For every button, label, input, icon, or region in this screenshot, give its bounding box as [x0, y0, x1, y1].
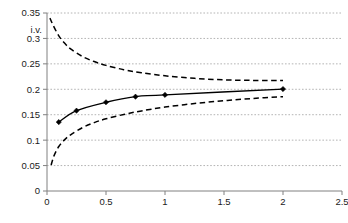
x-axis-tick-label: 1	[162, 196, 167, 207]
y-axis-tick-label: 0.35	[22, 7, 41, 18]
chart-container: 00.511.522.5 0.350.30.250.20.150.10.050 …	[0, 0, 348, 223]
implied-volatility-chart: 00.511.522.5 0.350.30.250.20.150.10.050 …	[0, 0, 348, 223]
x-axis-tick-label: 1.5	[217, 196, 230, 207]
y-axis-tick-label: 0	[35, 185, 40, 196]
chart-background	[0, 0, 348, 223]
x-axis-tick-label: 2	[280, 196, 285, 207]
x-axis-tick-label: 0	[44, 196, 49, 207]
y-axis-tick-label: 0.1	[27, 135, 40, 146]
y-axis-tick-label: 0.05	[22, 160, 41, 171]
y-axis-tick-label: 0.15	[22, 109, 41, 120]
y-axis-tick-label: 0.2	[27, 84, 40, 95]
x-axis-tick-label: 2.5	[335, 196, 348, 207]
x-axis-tick-label: 0.5	[99, 196, 112, 207]
y-axis-title: i.v.	[31, 24, 42, 35]
y-axis-tick-label: 0.25	[22, 58, 41, 69]
